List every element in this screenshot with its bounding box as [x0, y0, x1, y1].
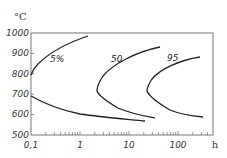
curve-label-50: 50 — [111, 54, 123, 64]
y-tick-500: 500 — [12, 130, 29, 140]
x-tick-10: 10 — [123, 140, 135, 150]
ttt-diagram: °C 1000 900 800 700 600 500 — [0, 0, 227, 158]
y-tick-600: 600 — [12, 109, 29, 119]
y-tick-800: 800 — [12, 69, 29, 79]
curve-5-lower — [31, 96, 145, 121]
curve-label-95: 95 — [167, 53, 179, 63]
y-tick-1000: 1000 — [6, 28, 29, 38]
x-tick-0.1: 0,1 — [24, 140, 38, 150]
x-axis-unit: h — [212, 139, 219, 150]
y-tick-900: 900 — [12, 48, 29, 58]
x-axis-ticks — [46, 131, 208, 135]
curve-95 — [147, 57, 203, 117]
x-tick-1: 1 — [77, 140, 83, 150]
y-axis-unit: °C — [14, 11, 27, 22]
curve-label-5: 5% — [50, 54, 64, 64]
x-tick-100: 100 — [169, 140, 186, 150]
y-axis-ticks: 1000 900 800 700 600 500 — [6, 28, 34, 140]
y-tick-700: 700 — [12, 89, 29, 99]
